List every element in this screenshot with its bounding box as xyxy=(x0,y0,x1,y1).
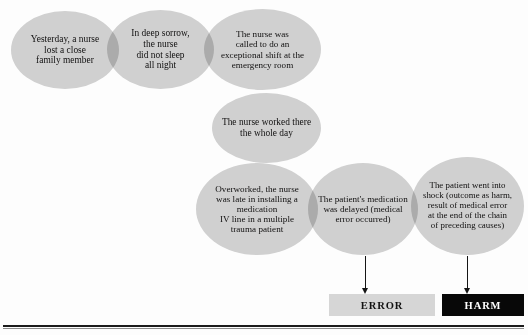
diagram-canvas: Yesterday, a nurse lost a close family m… xyxy=(0,0,528,335)
node-worked-whole-day: The nurse worked there the whole day xyxy=(212,93,321,163)
node-medication-delayed: The patient's medication was delayed (me… xyxy=(308,163,418,255)
down-arrow-icon-error xyxy=(365,256,366,289)
outcome-box-harm: HARM xyxy=(442,294,524,316)
node-label: The patient went into shock (outcome as … xyxy=(411,181,524,231)
node-no-sleep: In deep sorrow, the nurse did not sleep … xyxy=(107,10,214,89)
bottom-rule-shadow xyxy=(3,328,524,329)
node-patient-shock: The patient went into shock (outcome as … xyxy=(411,157,524,255)
down-arrow-icon-harm xyxy=(467,256,468,289)
outcome-box-error: ERROR xyxy=(329,294,435,316)
bottom-rule xyxy=(3,325,524,327)
node-overworked-late-iv: Overworked, the nurse was late in instal… xyxy=(196,163,318,255)
node-family-loss: Yesterday, a nurse lost a close family m… xyxy=(11,11,119,89)
node-label: The nurse worked there the whole day xyxy=(212,117,321,138)
node-label: The nurse was called to do an exceptiona… xyxy=(204,29,321,70)
node-exceptional-shift: The nurse was called to do an exceptiona… xyxy=(204,9,321,90)
node-label: Yesterday, a nurse lost a close family m… xyxy=(11,34,119,66)
node-label: In deep sorrow, the nurse did not sleep … xyxy=(107,28,214,70)
outcome-label: HARM xyxy=(465,300,502,311)
node-label: Overworked, the nurse was late in instal… xyxy=(196,184,318,235)
outcome-label: ERROR xyxy=(361,300,403,311)
node-label: The patient's medication was delayed (me… xyxy=(308,194,418,225)
